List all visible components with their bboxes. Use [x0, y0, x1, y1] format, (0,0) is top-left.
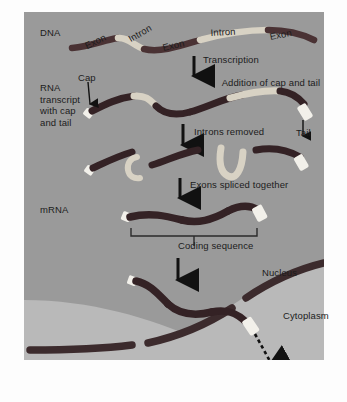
annotation-nucleus: Nucleus [262, 267, 297, 279]
process-label-exons-spliced: Exons spliced together [190, 179, 288, 191]
annotation-tail: Tail [296, 127, 311, 139]
process-label-introns-removed: Introns removed [194, 126, 264, 138]
row-label-rna-transcript: RNA transcript with cap and tail [40, 82, 80, 128]
process-transcription-line1: Transcription [203, 54, 259, 65]
annotation-coding-sequence: Coding sequence [178, 240, 253, 252]
row-label-mrna: mRNA [40, 204, 68, 216]
annotation-cap: Cap [78, 72, 96, 84]
process-label-transcription: Transcription Addition of cap and tail [203, 54, 320, 89]
diagram-page: DNA RNA transcript with cap and tail mRN… [0, 0, 347, 402]
dna-label-intron-2: Intron [210, 26, 235, 39]
row-label-dna: DNA [40, 27, 60, 39]
process-transcription-line2: Addition of cap and tail [222, 77, 321, 88]
annotation-cytoplasm: Cytoplasm [283, 310, 329, 322]
